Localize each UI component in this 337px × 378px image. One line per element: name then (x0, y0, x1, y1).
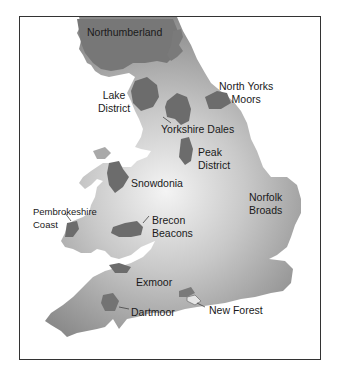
label-north-yorks-moors-line2: Moors (219, 93, 273, 106)
label-peak-district: Peak District (198, 146, 230, 172)
label-peak-district-line2: District (198, 159, 230, 172)
anglesey (93, 147, 111, 159)
label-north-yorks-moors-line1: North Yorks (219, 80, 273, 93)
label-lake-district-line1: Lake (98, 89, 130, 102)
label-brecon-line2: Beacons (152, 227, 193, 240)
label-northumberland: Northumberland (87, 26, 162, 39)
label-brecon-beacons: Brecon Beacons (152, 214, 193, 240)
label-pembrokeshire-line2: Coast (33, 218, 97, 231)
label-pembrokeshire-coast: Pembrokeshire Coast (33, 205, 97, 231)
label-new-forest: New Forest (209, 304, 263, 317)
label-yorkshire-dales: Yorkshire Dales (161, 123, 234, 136)
label-north-yorks-moors: North Yorks Moors (219, 80, 273, 106)
label-lake-district-line2: District (98, 102, 130, 115)
label-peak-district-line1: Peak (198, 146, 230, 159)
label-lake-district: Lake District (98, 89, 130, 115)
label-dartmoor: Dartmoor (131, 306, 175, 319)
label-exmoor: Exmoor (136, 276, 172, 289)
label-pembrokeshire-line1: Pembrokeshire (33, 205, 97, 218)
map-frame: Northumberland Lake District North Yorks… (19, 16, 321, 360)
label-norfolk-broads: Norfolk Broads (249, 191, 282, 217)
label-brecon-line1: Brecon (152, 214, 193, 227)
label-norfolk-line2: Broads (249, 204, 282, 217)
label-snowdonia: Snowdonia (131, 177, 183, 190)
label-norfolk-line1: Norfolk (249, 191, 282, 204)
